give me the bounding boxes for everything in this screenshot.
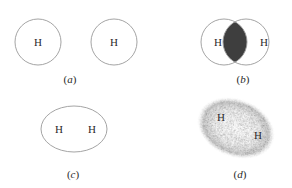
atom-label: H [217,111,225,123]
panel-caption: (a) [64,73,77,86]
panel-caption: (c) [67,168,80,181]
atom-label: H [260,36,268,48]
atom-label: H [34,36,42,48]
atom-label: H [110,36,118,48]
panel-a: H H (a) [15,19,137,86]
hydrogen-bond-diagram: H H (a) H H (b) H H (c) H H (d) [0,0,292,188]
electron-cloud [188,86,284,170]
panel-b: H H (b) [201,19,269,86]
molecular-orbital [41,106,107,152]
atom-label: H [88,123,96,135]
atom-label: H [254,129,262,141]
panel-caption: (d) [234,168,247,181]
panel-d: H H (d) [188,86,284,181]
panel-c: H H (c) [41,106,107,181]
atom-label: H [55,123,63,135]
panel-caption: (b) [237,73,250,86]
atom-label: H [214,36,222,48]
